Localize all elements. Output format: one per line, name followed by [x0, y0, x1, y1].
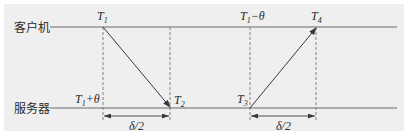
server-label: 服务器 [14, 101, 50, 116]
label-t1-plus-theta: T1+θ [75, 92, 100, 108]
clock-sync-diagram: 客户机 服务器 T1 T1−θ T4 T1+θ T2 T3 δ/2 δ/2 [0, 0, 410, 139]
client-label: 客户机 [14, 20, 50, 35]
interval-label-2: δ/2 [276, 119, 291, 133]
label-t1-minus-theta: T1−θ [240, 9, 265, 25]
diagram-background [4, 4, 404, 131]
interval-label-1: δ/2 [129, 119, 144, 133]
